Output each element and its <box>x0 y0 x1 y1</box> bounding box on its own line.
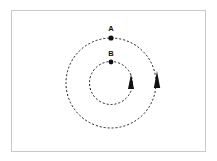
inner-orbit-path <box>90 62 133 105</box>
inner-orbit-direction-arrow-icon <box>128 74 134 89</box>
body-b-label: B <box>108 49 114 58</box>
orbit-diagram: A B <box>0 0 217 161</box>
body-a-dot <box>108 35 113 40</box>
body-b-dot <box>109 60 114 65</box>
body-a-label: A <box>108 24 114 33</box>
figure-root: A B <box>0 0 217 161</box>
